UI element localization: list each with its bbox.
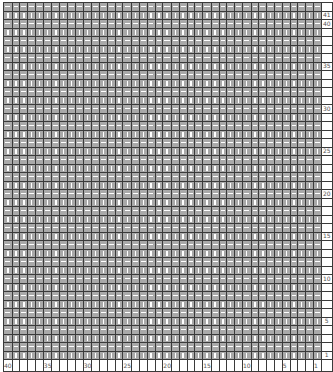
knit-stitch-icon bbox=[43, 351, 52, 360]
knit-stitch-icon bbox=[60, 45, 68, 54]
purl-stitch-icon bbox=[147, 156, 155, 165]
purl-stitch-icon bbox=[171, 3, 179, 12]
purl-stitch-icon bbox=[195, 71, 203, 80]
purl-stitch-icon bbox=[306, 292, 314, 301]
knit-stitch-icon bbox=[227, 28, 235, 37]
knit-stitch-icon bbox=[123, 130, 132, 139]
purl-stitch-icon bbox=[107, 326, 115, 335]
purl-stitch-icon bbox=[211, 207, 219, 216]
knit-stitch-icon bbox=[83, 266, 92, 275]
purl-stitch-icon bbox=[36, 3, 44, 12]
purl-stitch-icon bbox=[251, 156, 259, 165]
knit-stitch-icon bbox=[267, 11, 275, 20]
purl-stitch-icon bbox=[163, 88, 172, 97]
purl-stitch-icon bbox=[267, 173, 275, 182]
purl-stitch-icon bbox=[235, 343, 243, 352]
purl-stitch-icon bbox=[28, 207, 36, 216]
purl-stitch-icon bbox=[211, 3, 219, 12]
knit-stitch-icon bbox=[195, 215, 203, 224]
knit-stitch-icon bbox=[298, 334, 306, 343]
purl-stitch-icon bbox=[139, 54, 147, 63]
purl-stitch-icon bbox=[107, 156, 115, 165]
purl-stitch-icon bbox=[123, 173, 132, 182]
knit-stitch-icon bbox=[28, 79, 36, 88]
row-number-label: 10 bbox=[321, 275, 332, 284]
knit-stitch-icon bbox=[20, 181, 28, 190]
purl-stitch-icon bbox=[242, 37, 251, 46]
purl-stitch-icon bbox=[242, 156, 251, 165]
knit-stitch-icon bbox=[4, 28, 13, 37]
knit-stitch-icon bbox=[60, 11, 68, 20]
purl-stitch-icon bbox=[187, 3, 195, 12]
purl-stitch-icon bbox=[203, 88, 212, 97]
knit-stitch-icon bbox=[36, 113, 44, 122]
purl-stitch-icon bbox=[219, 190, 227, 199]
purl-stitch-icon bbox=[147, 37, 155, 46]
purl-stitch-icon bbox=[313, 224, 321, 233]
purl-stitch-icon bbox=[155, 122, 163, 131]
column-number-row: 4035302520151051 bbox=[4, 360, 333, 372]
knit-stitch-icon bbox=[235, 79, 243, 88]
knit-stitch-icon bbox=[275, 96, 283, 105]
purl-stitch-icon bbox=[306, 54, 314, 63]
knit-stitch-icon bbox=[147, 130, 155, 139]
knit-stitch-icon bbox=[195, 45, 203, 54]
purl-stitch-icon bbox=[100, 207, 108, 216]
knit-stitch-icon bbox=[68, 62, 76, 71]
knit-stitch-icon bbox=[155, 28, 163, 37]
knit-stitch-icon bbox=[83, 198, 92, 207]
knit-stitch-icon bbox=[60, 249, 68, 258]
knit-stitch-icon bbox=[298, 198, 306, 207]
knit-stitch-icon bbox=[290, 249, 298, 258]
purl-stitch-icon bbox=[100, 190, 108, 199]
purl-stitch-icon bbox=[211, 37, 219, 46]
knit-stitch-icon bbox=[203, 300, 212, 309]
knit-stitch-icon bbox=[259, 232, 267, 241]
knit-stitch-icon bbox=[219, 28, 227, 37]
knit-stitch-icon bbox=[147, 96, 155, 105]
knit-stitch-icon bbox=[147, 28, 155, 37]
knit-stitch-icon bbox=[92, 351, 100, 360]
knit-stitch-icon bbox=[43, 215, 52, 224]
purl-stitch-icon bbox=[60, 173, 68, 182]
knit-stitch-icon bbox=[43, 232, 52, 241]
knit-stitch-icon bbox=[132, 79, 140, 88]
purl-stitch-icon bbox=[155, 71, 163, 80]
purl-stitch-icon bbox=[107, 173, 115, 182]
knit-stitch-icon bbox=[282, 130, 290, 139]
knit-stitch-icon bbox=[12, 198, 20, 207]
purl-stitch-icon bbox=[28, 156, 36, 165]
purl-stitch-icon bbox=[68, 122, 76, 131]
column-number-label: 15 bbox=[203, 360, 212, 372]
knit-stitch-icon bbox=[60, 351, 68, 360]
knit-stitch-icon bbox=[132, 249, 140, 258]
knit-stitch-icon bbox=[259, 130, 267, 139]
knit-stitch-icon bbox=[100, 164, 108, 173]
knit-stitch-icon bbox=[43, 96, 52, 105]
row-number-label bbox=[321, 45, 332, 54]
knit-stitch-icon bbox=[203, 249, 212, 258]
purl-stitch-icon bbox=[43, 224, 52, 233]
chart-row bbox=[4, 343, 333, 352]
purl-stitch-icon bbox=[107, 139, 115, 148]
purl-stitch-icon bbox=[163, 258, 172, 267]
purl-stitch-icon bbox=[219, 292, 227, 301]
purl-stitch-icon bbox=[132, 258, 140, 267]
purl-stitch-icon bbox=[267, 3, 275, 12]
knit-stitch-icon bbox=[313, 62, 321, 71]
chart-row: 15 bbox=[4, 232, 333, 241]
knit-stitch-icon bbox=[211, 28, 219, 37]
knit-stitch-icon bbox=[282, 45, 290, 54]
purl-stitch-icon bbox=[203, 3, 212, 12]
purl-stitch-icon bbox=[282, 309, 290, 318]
purl-stitch-icon bbox=[219, 3, 227, 12]
purl-stitch-icon bbox=[52, 190, 60, 199]
knit-stitch-icon bbox=[68, 215, 76, 224]
purl-stitch-icon bbox=[43, 292, 52, 301]
knit-stitch-icon bbox=[43, 113, 52, 122]
knit-stitch-icon bbox=[68, 96, 76, 105]
purl-stitch-icon bbox=[132, 275, 140, 284]
purl-stitch-icon bbox=[227, 37, 235, 46]
knit-stitch-icon bbox=[83, 249, 92, 258]
purl-stitch-icon bbox=[267, 37, 275, 46]
